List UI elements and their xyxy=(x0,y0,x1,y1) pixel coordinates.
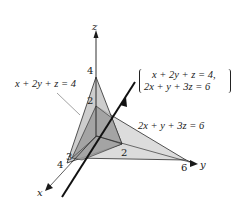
leader-line xyxy=(57,93,80,115)
system-line-1: x + 2y + z = 4, xyxy=(152,70,216,81)
plane2-equation-label: 2x + y + 3z = 6 xyxy=(138,121,204,132)
system-bracket: x + 2y + z = 4, 2x + y + 3z = 6 xyxy=(139,69,231,95)
x-axis-label: x xyxy=(37,187,43,198)
tick-x4: 4 xyxy=(57,159,63,170)
tick-y6: 6 xyxy=(181,162,187,173)
y-axis-label: y xyxy=(199,159,206,170)
system-line-2: 2x + y + 3z = 6 xyxy=(144,82,210,93)
plane1-equation-label: x + 2y + z = 4 xyxy=(15,79,76,90)
y-axis-arrow-icon xyxy=(190,160,198,167)
tick-x3: 3 xyxy=(66,151,72,162)
z-axis-label: z xyxy=(91,21,98,32)
planes-diagram: z y x 4 2 2 6 3 4 xyxy=(0,0,242,213)
tick-y2: 2 xyxy=(121,147,127,158)
tick-z2: 2 xyxy=(87,95,93,106)
tick-z4: 4 xyxy=(87,65,93,76)
